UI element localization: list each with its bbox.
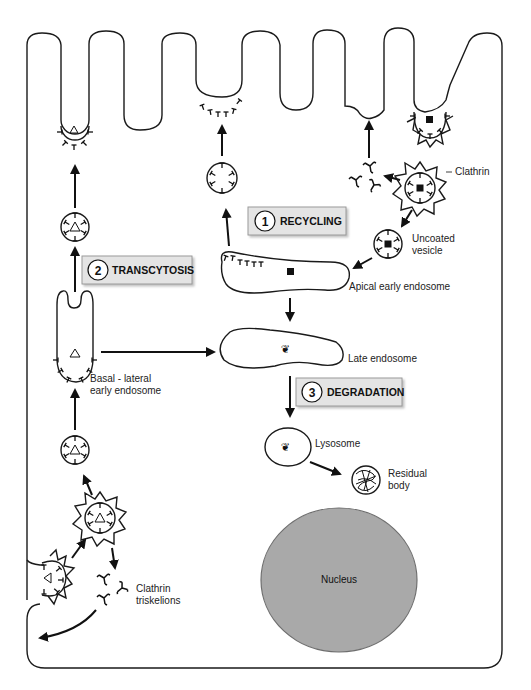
svg-text:3: 3 xyxy=(309,386,316,400)
svg-text:1: 1 xyxy=(262,215,269,229)
svg-text:DEGRADATION: DEGRADATION xyxy=(327,386,404,398)
nucleus: Nucleus xyxy=(261,508,417,652)
label-residual: Residual xyxy=(388,468,427,479)
uncoated-vesicle xyxy=(374,230,402,258)
pathway-label-transcytosis: 2 TRANSCYTOSIS xyxy=(82,256,194,284)
svg-text:❦: ❦ xyxy=(281,441,290,454)
pathway-label-recycling: 1 RECYCLING xyxy=(248,207,346,235)
endocytosis-diagram: Clathrin Uncoated vesicle Apical early e… xyxy=(0,0,531,690)
free-triskelions-apical xyxy=(349,162,381,194)
label-clathrin: Clathrin xyxy=(455,166,489,177)
label-lysosome: Lysosome xyxy=(315,438,361,449)
clathrin-coated-pit-basal xyxy=(27,550,74,604)
recycling-vesicle xyxy=(207,163,237,193)
clathrin-coated-pit xyxy=(407,112,453,147)
transcytosis-vesicle-lower xyxy=(61,436,89,464)
label-uncoated: Uncoated xyxy=(412,233,455,244)
apical-early-endosome xyxy=(221,252,349,293)
basal-lateral-early-endosome xyxy=(53,291,97,384)
svg-text:RECYCLING: RECYCLING xyxy=(280,215,342,227)
label-basal-lateral: Basal - lateral xyxy=(90,373,151,384)
recycling-fusion-pit xyxy=(200,98,242,117)
svg-text:❦: ❦ xyxy=(281,343,290,356)
label-late-endosome: Late endosome xyxy=(348,353,417,364)
label-body: body xyxy=(388,480,410,491)
label-apical-early-endosome: Apical early endosome xyxy=(349,281,451,292)
apical-fusion-pit-left xyxy=(57,126,93,150)
label-clathrin-triskelions-2: triskelions xyxy=(136,595,180,606)
clathrin-coated-vesicle-apical xyxy=(393,162,446,216)
lysosome: ❦ xyxy=(265,428,311,466)
label-early-endosome: early endosome xyxy=(90,385,162,396)
svg-text:TRANSCYTOSIS: TRANSCYTOSIS xyxy=(112,264,194,276)
label-clathrin-triskelions-1: Clathrin xyxy=(136,583,170,594)
label-vesicle: vesicle xyxy=(412,245,443,256)
late-endosome: ❦ xyxy=(220,328,343,368)
svg-text:2: 2 xyxy=(95,264,102,278)
label-nucleus: Nucleus xyxy=(321,574,357,585)
pathway-label-degradation: 3 DEGRADATION xyxy=(296,378,404,406)
free-triskelions-basal xyxy=(97,574,128,605)
clathrin-coated-vesicle-basal xyxy=(73,492,126,546)
residual-body xyxy=(352,466,380,494)
transcytosis-vesicle-upper xyxy=(61,213,89,241)
